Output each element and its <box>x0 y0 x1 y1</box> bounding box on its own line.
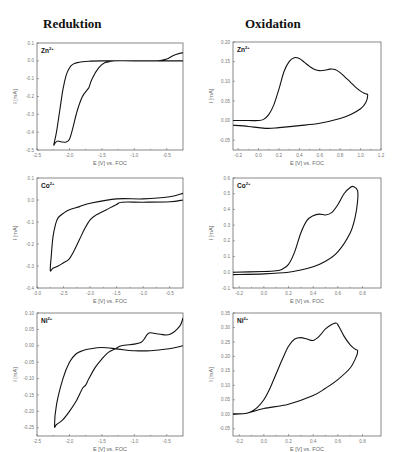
cv-curve <box>233 186 358 274</box>
x-tick-label: -0.5 <box>163 439 171 444</box>
x-axis-title: E [V] vs. FOC <box>93 298 127 304</box>
plot-frame <box>37 313 183 436</box>
x-tick-label: -1.5 <box>113 291 121 296</box>
y-tick-label: -0.10 <box>24 376 35 381</box>
y-tick-label: 0.0 <box>28 198 35 203</box>
x-tick-label: 0.0 <box>255 153 262 158</box>
y-axis-title: I [mA] <box>12 367 18 382</box>
y-axis-title: I [mA] <box>12 89 18 104</box>
y-tick-label: 0.2 <box>224 238 231 243</box>
y-tick-label: -0.15 <box>24 393 35 398</box>
cv-curve <box>55 318 183 428</box>
y-tick-label: -0.3 <box>26 264 34 269</box>
x-tick-label: -2.0 <box>65 439 73 444</box>
y-tick-label: -0.05 <box>220 426 231 431</box>
x-tick-label: -2.0 <box>86 291 94 296</box>
y-axis-title: I [mA] <box>208 225 214 240</box>
y-tick-label: 0.10 <box>221 383 230 388</box>
plot-frame <box>233 313 381 436</box>
x-tick-label: 0.6 <box>317 153 324 158</box>
x-tick-label: -0.2 <box>234 153 242 158</box>
x-axis-title: E [V] vs. FOC <box>93 446 127 452</box>
y-tick-label: 0.35 <box>221 311 230 316</box>
y-axis-title: I [mA] <box>12 225 18 240</box>
y-tick-label: 0.0 <box>28 58 35 63</box>
plot-frame <box>233 42 381 150</box>
y-axis-title: I [mA] <box>208 88 214 103</box>
x-tick-label: -1.0 <box>130 153 138 158</box>
x-tick-label: -1.5 <box>98 153 106 158</box>
ion-label: Zn2+ <box>237 45 250 53</box>
plot-frame <box>37 43 183 150</box>
y-tick-label: -0.4 <box>26 286 34 291</box>
y-axis-title: I [mA] <box>208 367 214 382</box>
ion-label: Zn2+ <box>41 46 54 54</box>
ion-label: Co2+ <box>41 181 55 189</box>
chart-red-co: -3.0-2.5-2.0-1.5-1.0-0.50.10.0-0.1-0.2-0… <box>12 176 183 304</box>
y-tick-label: 0.00 <box>221 412 230 417</box>
plot-frame <box>37 178 183 288</box>
y-tick-label: 0.1 <box>224 254 231 259</box>
y-tick-label: 0.15 <box>221 59 230 64</box>
x-tick-label: -1.5 <box>98 439 106 444</box>
x-tick-label: -1.0 <box>139 291 147 296</box>
y-tick-label: 0.00 <box>25 343 34 348</box>
chart-ox-zn: -0.20.00.20.40.60.81.01.20.200.150.100.0… <box>208 40 385 166</box>
y-tick-label: 0.0 <box>224 270 231 275</box>
x-tick-label: -2.5 <box>33 439 41 444</box>
x-tick-label: -3.0 <box>33 291 41 296</box>
x-tick-label: 1.2 <box>378 153 385 158</box>
x-tick-label: -0.2 <box>235 439 243 444</box>
y-tick-label: 0.10 <box>25 311 34 316</box>
y-tick-label: 0.15 <box>221 368 230 373</box>
y-tick-label: -0.25 <box>24 425 35 430</box>
y-tick-label: 0.6 <box>224 176 231 181</box>
y-tick-label: 0.05 <box>221 99 230 104</box>
x-tick-label: 0.2 <box>276 153 283 158</box>
cv-curve <box>233 58 368 129</box>
ion-label: Co2+ <box>237 181 251 189</box>
x-tick-label: -0.5 <box>163 153 171 158</box>
x-tick-label: -2.0 <box>65 153 73 158</box>
y-tick-label: 0.4 <box>224 207 231 212</box>
x-tick-label: 0.6 <box>335 439 342 444</box>
y-tick-label: -0.2 <box>26 242 34 247</box>
y-tick-label: -0.5 <box>26 148 34 153</box>
y-tick-label: 0.20 <box>221 40 230 45</box>
x-tick-label: 0.4 <box>310 439 317 444</box>
x-tick-label: 0.6 <box>335 291 342 296</box>
y-tick-label: 0.05 <box>25 327 34 332</box>
x-tick-label: -0.2 <box>235 291 243 296</box>
x-tick-label: 0.8 <box>359 439 366 444</box>
y-tick-label: 0.05 <box>221 397 230 402</box>
y-tick-label: 0.1 <box>28 41 35 46</box>
x-tick-label: 0.2 <box>285 439 292 444</box>
chart-ox-co: -0.20.00.20.40.60.80.60.50.40.30.20.10.0… <box>208 176 381 304</box>
y-tick-label: -0.2 <box>26 94 34 99</box>
y-tick-label: 0.5 <box>224 191 231 196</box>
y-tick-label: -0.4 <box>26 130 34 135</box>
x-tick-label: -0.5 <box>166 291 174 296</box>
y-tick-label: 0.1 <box>28 176 35 181</box>
chart-red-ni: -2.5-2.0-1.5-1.0-0.50.100.050.00-0.05-0.… <box>12 311 183 452</box>
x-tick-label: 0.0 <box>261 439 268 444</box>
y-tick-label: -0.1 <box>26 220 34 225</box>
x-tick-label: -1.0 <box>130 439 138 444</box>
x-tick-label: 0.2 <box>285 291 292 296</box>
y-tick-label: -0.05 <box>24 360 35 365</box>
cv-curve <box>233 323 358 414</box>
cv-curve <box>50 193 183 271</box>
chart-ox-ni: -0.20.00.20.40.60.80.350.300.250.200.150… <box>208 311 381 452</box>
x-tick-label: -2.5 <box>60 291 68 296</box>
x-axis-title: E [V] vs. FOC <box>290 298 324 304</box>
y-tick-label: 0.20 <box>221 354 230 359</box>
y-tick-label: 0.10 <box>221 79 230 84</box>
x-tick-label: 0.4 <box>296 153 303 158</box>
x-tick-label: 0.8 <box>359 291 366 296</box>
x-axis-title: E [V] vs. FOC <box>93 160 127 166</box>
y-tick-label: -0.05 <box>220 138 231 143</box>
x-tick-label: 1.0 <box>357 153 364 158</box>
ion-label: Ni2+ <box>41 316 53 324</box>
x-tick-label: 0.0 <box>261 291 268 296</box>
chart-red-zn: -2.5-2.0-1.5-1.0-0.50.10.0-0.1-0.2-0.3-0… <box>12 41 183 166</box>
